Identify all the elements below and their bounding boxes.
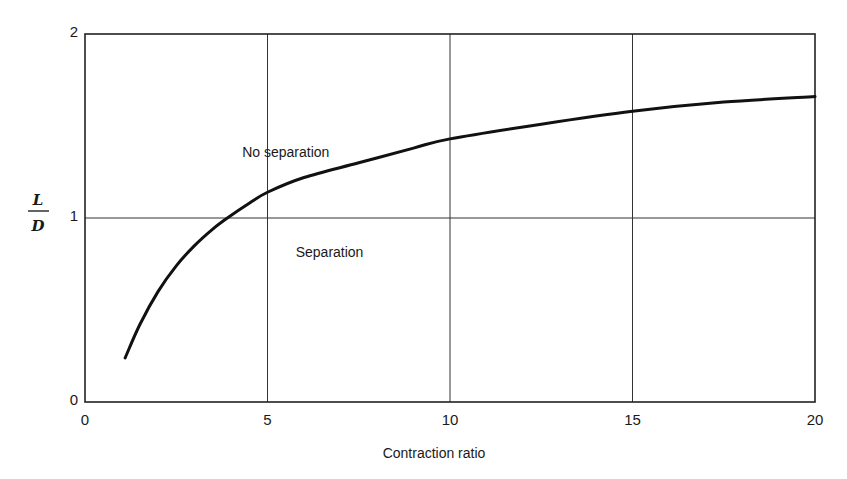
y-axis-title-numerator: L bbox=[32, 191, 44, 209]
x-axis-tick-labels: 05101520 bbox=[81, 411, 824, 428]
y-tick-label: 1 bbox=[70, 207, 78, 224]
x-tick-label: 15 bbox=[624, 411, 641, 428]
contraction-ratio-chart: 05101520 012 No separationSeparation Con… bbox=[0, 0, 847, 479]
x-tick-label: 0 bbox=[81, 411, 89, 428]
y-axis-tick-labels: 012 bbox=[70, 23, 78, 408]
separation-label: Separation bbox=[296, 244, 364, 260]
x-axis-title: Contraction ratio bbox=[383, 445, 486, 461]
x-tick-label: 5 bbox=[263, 411, 271, 428]
gridlines bbox=[85, 34, 815, 402]
x-tick-label: 10 bbox=[442, 411, 459, 428]
separation-boundary-curve bbox=[125, 97, 815, 358]
x-tick-label: 20 bbox=[807, 411, 824, 428]
y-axis-title-denominator: D bbox=[30, 217, 44, 235]
y-tick-label: 0 bbox=[70, 391, 78, 408]
y-axis-title: L D bbox=[28, 191, 49, 235]
y-tick-label: 2 bbox=[70, 23, 78, 40]
region-annotations: No separationSeparation bbox=[242, 144, 363, 259]
no-separation-label: No separation bbox=[242, 144, 329, 160]
